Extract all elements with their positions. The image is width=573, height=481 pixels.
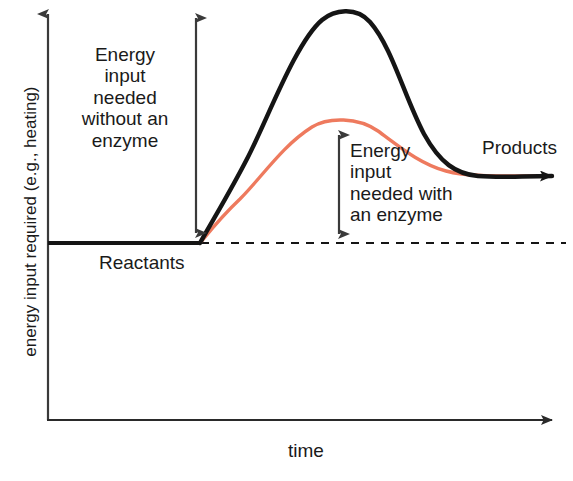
annotation-without-enzyme: Energy input needed without an enzyme <box>62 44 188 151</box>
y-axis-label: energy input required (e.g., heating) <box>21 57 40 387</box>
energy-diagram: Energy input needed without an enzyme En… <box>0 0 573 481</box>
annotation-reactants: Reactants <box>99 252 185 273</box>
annotation-with-enzyme: Energy input needed with an enzyme <box>350 140 490 226</box>
x-axis-label: time <box>288 440 324 461</box>
annotation-products: Products <box>482 137 557 158</box>
